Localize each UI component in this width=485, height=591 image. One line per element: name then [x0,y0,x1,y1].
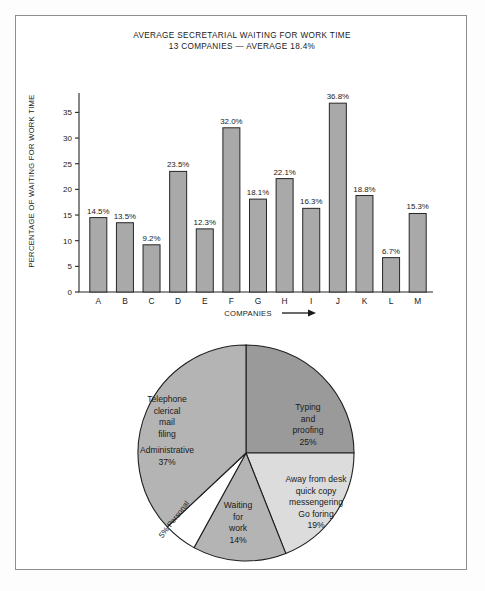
y-tick-label: 5 [68,262,73,271]
pie-slice-waiting-for-work [194,453,286,561]
pie-label-line: for [233,512,243,522]
pie-label-group-typing-and-proofing: Typingandproofing25% [292,402,323,447]
pie-label-line: 14% [229,535,247,545]
y-tick-label: 0 [68,288,73,297]
y-tick-label: 35 [63,108,72,117]
x-category-label: B [122,296,128,306]
pie-slice-labels: Typingandproofing25%Away from deskquick … [140,394,347,545]
bar-chart: AVERAGE SECRETARIAL WAITING FOR WORK TIM… [16,16,468,336]
pie-label-group-away-from-desk: Away from deskquick copymessengeringGo f… [286,474,348,530]
bar [170,171,187,292]
pie-label-line: work [228,523,248,533]
pie-label-group-administrative: TelephoneclericalmailfilingAdministrativ… [140,394,194,467]
chart-subtitle: 13 COMPANIES — AVERAGE 18.4% [169,42,315,51]
x-category-label: F [229,296,234,306]
bar-value-label: 14.5% [87,207,109,216]
bar [250,199,267,292]
x-category-label: G [255,296,262,306]
pie-label-line: Waiting [224,500,253,510]
x-axis-arrow-icon [282,310,316,317]
bar-value-label: 36.8% [327,92,349,101]
x-category-label: A [96,296,102,306]
x-axis-category-labels: ABCDEFGHIJKLM [96,296,422,306]
bar-value-label: 18.8% [353,185,375,194]
bar-value-label: 13.5% [114,212,136,221]
pie-slices [138,345,354,561]
pie-label-group-waiting-for-work: Waitingforwork14% [224,500,253,545]
y-tick-label: 30 [63,134,72,143]
bar-value-label: 23.5% [167,160,189,169]
x-category-label: I [310,296,312,306]
pie-label-line: filing [158,429,176,439]
bar [276,179,293,292]
pie-label-line: and [301,414,316,424]
bar [196,229,213,292]
pie-label-group-personal: 5% Personal [157,499,191,540]
bar [90,218,107,292]
pie-label-line: 37% [158,457,176,467]
figure-frame: AVERAGE SECRETARIAL WAITING FOR WORK TIM… [15,15,467,570]
pie-label-line: 19% [307,520,325,530]
bar [223,128,240,292]
bar-value-label: 22.1% [273,168,295,177]
pie-label-line: Telephone [147,394,187,404]
y-axis-title: PERCENTAGE OF WAITING FOR WORK TIME [27,94,36,267]
bar-value-label: 9.2% [143,234,161,243]
pie-label-line: messengering [289,497,343,507]
pie-label-line: clerical [154,406,181,416]
y-tick-label: 10 [63,237,72,246]
y-tick-label: 20 [63,185,72,194]
bar-value-label: 15.3% [407,202,429,211]
bar [356,196,373,292]
pie-label-line: 5% Personal [157,499,191,540]
pie-label-line: proofing [292,425,323,435]
x-category-label: K [362,296,368,306]
bar [329,103,346,292]
pie-slice-away-from-desk [246,453,354,553]
pie-label-line: quick copy [296,486,337,496]
pie-slice-personal [167,453,246,548]
x-category-label: H [282,296,288,306]
x-category-label: C [149,296,155,306]
bar [303,208,320,292]
pie-slice-typing-and-proofing [246,345,354,453]
pie-label-line: 25% [299,437,317,447]
page-background: AVERAGE SECRETARIAL WAITING FOR WORK TIM… [0,0,485,591]
pie-slice-administrative [138,345,246,527]
x-arrow-head [308,310,316,317]
x-axis-title: COMPANIES [224,309,272,318]
bar [383,258,400,292]
bar-value-label: 12.3% [194,218,216,227]
x-category-label: E [202,296,208,306]
x-category-label: M [414,296,421,306]
y-tick-label: 25 [63,160,72,169]
x-category-label: L [389,296,394,306]
bar [116,223,133,292]
bar [409,213,426,292]
pie-label-line: Go foring [298,509,334,519]
y-axis-ticks: 05101520253035 [63,108,79,297]
bar-value-label: 6.7% [382,247,400,256]
pie-label-line: mail [159,417,175,427]
x-category-label: J [336,296,340,306]
y-tick-label: 15 [63,211,72,220]
pie-label-line: Administrative [140,445,194,455]
bar-value-label: 18.1% [247,188,269,197]
pie-label-line: Away from desk [286,474,348,484]
chart-title: AVERAGE SECRETARIAL WAITING FOR WORK TIM… [133,31,351,40]
bar-value-label: 16.3% [300,197,322,206]
pie-label-line: Typing [295,402,321,412]
bar [143,245,160,292]
bar-series: 14.5%13.5%9.2%23.5%12.3%32.0%18.1%22.1%1… [87,92,429,292]
bar-value-label: 32.0% [220,117,242,126]
x-category-label: D [175,296,181,306]
